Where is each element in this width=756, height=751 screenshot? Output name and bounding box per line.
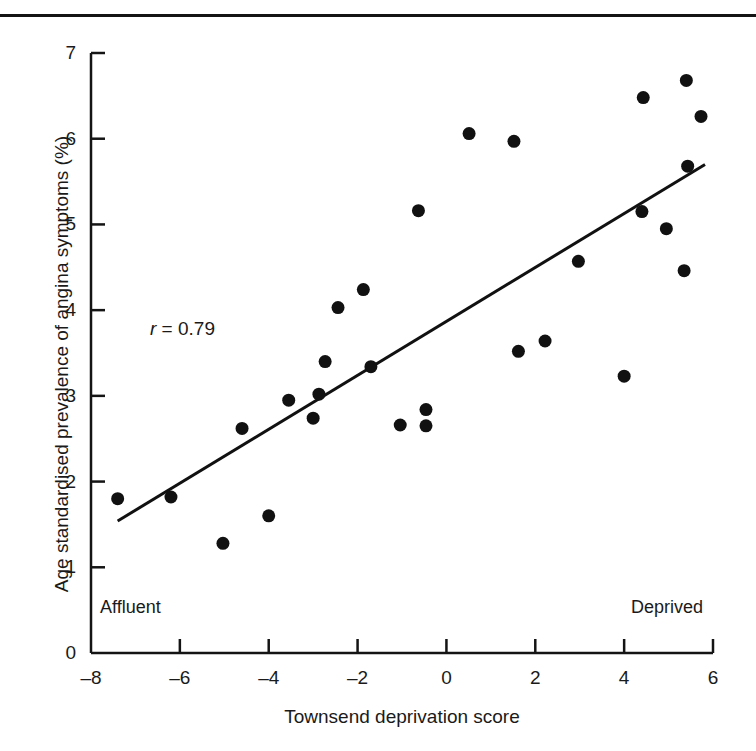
x-axis-title: Townsend deprivation score (91, 706, 713, 728)
data-point (618, 370, 631, 383)
data-point (539, 335, 552, 348)
data-point (412, 204, 425, 217)
data-point (678, 264, 691, 277)
data-points (111, 74, 707, 550)
regression-line-segment (118, 164, 705, 521)
x-tick-label: –2 (347, 667, 368, 689)
regression-line (118, 164, 705, 521)
data-point (282, 394, 295, 407)
y-tick-label: 7 (34, 42, 76, 64)
plot-canvas (0, 0, 756, 751)
data-point (512, 345, 525, 358)
affluent-note: Affluent (100, 597, 161, 618)
y-axis-title: Age standardised prevalence of angina sy… (51, 84, 73, 644)
data-point (111, 492, 124, 505)
data-point (681, 160, 694, 173)
data-point (463, 127, 476, 140)
data-point (637, 91, 650, 104)
data-point (394, 419, 407, 432)
data-point (312, 388, 325, 401)
data-point (319, 355, 332, 368)
data-point (419, 403, 432, 416)
x-tick-label: –8 (80, 667, 101, 689)
data-point (660, 222, 673, 235)
x-tick-label: –6 (169, 667, 190, 689)
data-point (262, 509, 275, 522)
y-axis-ticks (91, 53, 105, 567)
correlation-value: = 0.79 (156, 318, 215, 339)
data-point (357, 283, 370, 296)
data-point (419, 419, 432, 432)
x-tick-label: –4 (258, 667, 279, 689)
deprived-note: Deprived (631, 597, 703, 618)
data-point (332, 301, 345, 314)
data-point (572, 255, 585, 268)
axes (91, 53, 713, 653)
x-tick-label: 4 (619, 667, 630, 689)
x-tick-label: 6 (708, 667, 719, 689)
data-point (236, 422, 249, 435)
x-tick-label: 0 (441, 667, 452, 689)
data-point (680, 74, 693, 87)
data-point (307, 412, 320, 425)
data-point (216, 537, 229, 550)
x-tick-label: 2 (530, 667, 541, 689)
data-point (695, 110, 708, 123)
y-tick-label: 0 (34, 642, 76, 664)
correlation-annotation: r = 0.79 (150, 318, 215, 340)
data-point (507, 135, 520, 148)
figure-page: 01234567 –8–6–4–20246 Age standardised p… (0, 0, 756, 751)
data-point (635, 205, 648, 218)
data-point (364, 360, 377, 373)
data-point (164, 491, 177, 504)
x-axis-ticks (180, 639, 713, 653)
scatter-plot-figure: 01234567 –8–6–4–20246 Age standardised p… (0, 0, 756, 751)
